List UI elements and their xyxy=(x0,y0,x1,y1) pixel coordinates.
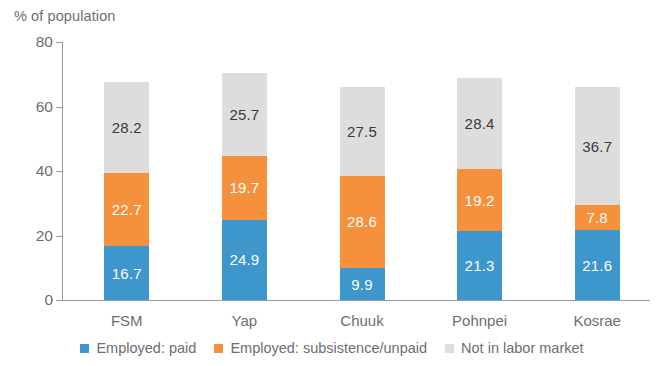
bar-segment[interactable]: 21.6 xyxy=(575,230,620,300)
bar-group-pohnpei[interactable]: 21.319.228.4 xyxy=(457,42,502,300)
x-axis-category-label: Yap xyxy=(192,312,297,329)
legend-item[interactable]: Not in labor market xyxy=(445,340,584,356)
x-axis-category-label: Kosrae xyxy=(545,312,650,329)
bar-value-label: 7.8 xyxy=(586,209,607,226)
legend-swatch-icon xyxy=(80,344,89,353)
stacked-bar[interactable]: 21.319.228.4 xyxy=(457,78,502,300)
stacked-bar[interactable]: 16.722.728.2 xyxy=(104,82,149,300)
x-axis-category-label: FSM xyxy=(74,312,179,329)
stacked-bar-chart: % of population 020406080 16.722.728.224… xyxy=(0,0,664,366)
bar-segment[interactable]: 16.7 xyxy=(104,246,149,300)
bar-segment[interactable]: 21.3 xyxy=(457,231,502,300)
bar-segment[interactable]: 28.6 xyxy=(340,176,385,268)
legend-label: Employed: subsistence/unpaid xyxy=(230,340,427,356)
bar-value-label: 21.3 xyxy=(465,257,495,274)
legend-swatch-icon xyxy=(214,344,223,353)
stacked-bar[interactable]: 24.919.725.7 xyxy=(222,73,267,300)
bar-value-label: 19.2 xyxy=(465,192,495,209)
bar-segment[interactable]: 19.7 xyxy=(222,156,267,220)
legend-swatch-icon xyxy=(445,344,454,353)
bar-segment[interactable]: 27.5 xyxy=(340,87,385,176)
bar-segment[interactable]: 28.2 xyxy=(104,82,149,173)
bar-segment[interactable]: 9.9 xyxy=(340,268,385,300)
x-axis-category-label: Pohnpei xyxy=(427,312,532,329)
bar-value-label: 24.9 xyxy=(229,251,259,268)
bar-value-label: 16.7 xyxy=(112,265,142,282)
bar-value-label: 25.7 xyxy=(229,106,259,123)
y-tick-label: 60 xyxy=(36,98,62,116)
bar-group-kosrae[interactable]: 21.67.836.7 xyxy=(575,42,620,300)
plot-area: 16.722.728.224.919.725.79.928.627.521.31… xyxy=(62,42,650,300)
bar-segment[interactable]: 28.4 xyxy=(457,78,502,170)
bar-value-label: 27.5 xyxy=(347,123,377,140)
bar-value-label: 36.7 xyxy=(582,138,612,155)
bar-value-label: 22.7 xyxy=(112,201,142,218)
bar-group-yap[interactable]: 24.919.725.7 xyxy=(222,42,267,300)
bar-group-chuuk[interactable]: 9.928.627.5 xyxy=(340,42,385,300)
legend-label: Employed: paid xyxy=(96,340,196,356)
y-tick-label: 0 xyxy=(44,291,62,309)
bar-value-label: 21.6 xyxy=(582,257,612,274)
y-axis-title: % of population xyxy=(14,8,115,24)
x-axis-category-label: Chuuk xyxy=(310,312,415,329)
stacked-bar[interactable]: 21.67.836.7 xyxy=(575,87,620,300)
bar-group-fsm[interactable]: 16.722.728.2 xyxy=(104,42,149,300)
x-axis-line xyxy=(62,300,650,301)
y-tick-label: 20 xyxy=(36,227,62,245)
bar-value-label: 28.6 xyxy=(347,213,377,230)
bar-value-label: 28.2 xyxy=(112,119,142,136)
bar-segment[interactable]: 7.8 xyxy=(575,205,620,230)
bar-segment[interactable]: 19.2 xyxy=(457,169,502,231)
y-tick-label: 40 xyxy=(36,162,62,180)
chart-legend: Employed: paidEmployed: subsistence/unpa… xyxy=(0,340,664,356)
bar-value-label: 19.7 xyxy=(229,179,259,196)
bar-segment[interactable]: 24.9 xyxy=(222,220,267,300)
bar-segment[interactable]: 36.7 xyxy=(575,87,620,205)
bar-segment[interactable]: 22.7 xyxy=(104,173,149,246)
legend-label: Not in labor market xyxy=(461,340,584,356)
legend-item[interactable]: Employed: subsistence/unpaid xyxy=(214,340,427,356)
legend-item[interactable]: Employed: paid xyxy=(80,340,196,356)
bar-value-label: 28.4 xyxy=(465,115,495,132)
bar-value-label: 9.9 xyxy=(351,276,372,293)
y-tick-label: 80 xyxy=(36,33,62,51)
bar-segment[interactable]: 25.7 xyxy=(222,73,267,156)
stacked-bar[interactable]: 9.928.627.5 xyxy=(340,87,385,300)
